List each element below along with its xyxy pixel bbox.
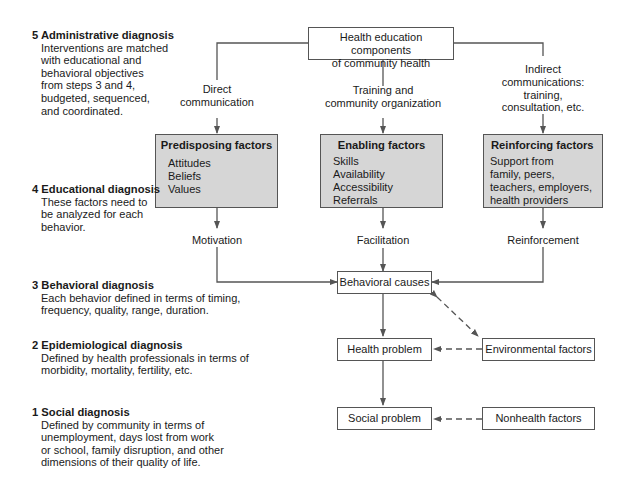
step-title: 1 Social diagnosis <box>32 406 224 419</box>
training-label: Training and community organization <box>318 84 448 110</box>
step-1-social: 1 Social diagnosis Defined by community … <box>32 406 224 469</box>
step-line: with educational and <box>41 54 174 67</box>
reinforcing-title: Reinforcing factors <box>484 139 602 152</box>
step-title: 2 Epidemiological diagnosis <box>32 339 249 352</box>
step-line: Defined by community in terms of <box>41 419 224 432</box>
indirect-line3: training, <box>493 89 593 102</box>
step-line: Defined by health professionals in terms… <box>41 352 249 365</box>
top-box-line2: of community health <box>309 57 453 70</box>
enabling-factors-box: Enabling factors Skills Availability Acc… <box>320 134 443 208</box>
environmental-factors-box: Environmental factors <box>482 338 595 361</box>
indirect-communications-label: Indirect communications: training, consu… <box>493 63 593 114</box>
step-title: 5 Administrative diagnosis <box>32 29 174 42</box>
step-line: frequency, quality, range, duration. <box>41 304 240 317</box>
step-5-administrative: 5 Administrative diagnosis Interventions… <box>32 29 174 117</box>
social-problem-box: Social problem <box>337 407 432 430</box>
step-line: and coordinated. <box>41 105 174 118</box>
step-line: behavioral objectives <box>41 67 174 80</box>
motivation-label: Motivation <box>177 234 257 247</box>
training-line1: Training and <box>318 84 448 97</box>
health-education-components-box: Health education components of community… <box>308 27 454 60</box>
facilitation-label: Facilitation <box>343 234 423 247</box>
step-line: dimensions of their quality of life. <box>41 456 224 469</box>
factor-item: teachers, employers, <box>490 181 602 194</box>
step-line: be analyzed for each <box>41 208 160 221</box>
factor-item: family, peers, <box>490 168 602 181</box>
factor-item: Beliefs <box>168 170 277 183</box>
predisposing-title: Predisposing factors <box>156 139 277 152</box>
step-line: behavior. <box>41 221 160 234</box>
step-line: budgeted, sequenced, <box>41 92 174 105</box>
step-line: morbidity, mortality, fertility, etc. <box>41 364 249 377</box>
factor-item: Accessibility <box>333 181 442 194</box>
factor-item: Attitudes <box>168 157 277 170</box>
step-line: These factors need to <box>41 196 160 209</box>
step-title: 4 Educational diagnosis <box>32 183 160 196</box>
factor-item: Skills <box>333 155 442 168</box>
direct-line1: Direct <box>172 83 262 96</box>
predisposing-factors-box: Predisposing factors Attitudes Beliefs V… <box>155 134 278 208</box>
factor-item: health providers <box>490 194 602 207</box>
step-4-educational: 4 Educational diagnosis These factors ne… <box>32 183 160 233</box>
step-line: or school, family disruption, and other <box>41 444 224 457</box>
health-problem-box: Health problem <box>337 338 432 361</box>
step-3-behavioral: 3 Behavioral diagnosis Each behavior def… <box>32 279 240 317</box>
indirect-line4: consultation, etc. <box>493 101 593 114</box>
step-title: 3 Behavioral diagnosis <box>32 279 240 292</box>
indirect-line2: communications: <box>493 76 593 89</box>
indirect-line1: Indirect <box>493 63 593 76</box>
factor-item: Values <box>168 183 277 196</box>
factor-item: Referrals <box>333 194 442 207</box>
reinforcement-label: Reinforcement <box>498 234 588 247</box>
nonhealth-factors-box: Nonhealth factors <box>482 407 595 430</box>
step-line: unemployment, days lost from work <box>41 431 224 444</box>
behavioral-causes-box: Behavioral causes <box>337 271 432 294</box>
factor-item: Support from <box>490 155 602 168</box>
direct-line2: communication <box>172 96 262 109</box>
step-line: Interventions are matched <box>41 42 174 55</box>
step-line: Each behavior defined in terms of timing… <box>41 292 240 305</box>
enabling-title: Enabling factors <box>321 139 442 152</box>
step-2-epidemiological: 2 Epidemiological diagnosis Defined by h… <box>32 339 249 377</box>
reinforcing-factors-box: Reinforcing factors Support from family,… <box>483 134 603 208</box>
factor-item: Availability <box>333 168 442 181</box>
training-line2: community organization <box>318 97 448 110</box>
step-line: from steps 3 and 4, <box>41 79 174 92</box>
direct-communication-label: Direct communication <box>172 83 262 109</box>
top-box-line1: Health education components <box>309 31 453 57</box>
